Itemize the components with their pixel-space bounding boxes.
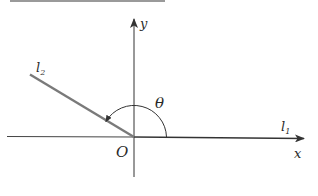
line-l2-label: l2 [36, 60, 45, 77]
y-axis-label: y [139, 16, 148, 31]
line-l1-label-sub: 1 [285, 127, 290, 136]
angle-theta-label: θ [155, 94, 164, 112]
x-axis-label: x [294, 146, 302, 161]
x-axis-positive-l1 [134, 137, 304, 139]
line-l2 [30, 75, 134, 138]
diagram-canvas: y x O θ l2 l1 [0, 0, 318, 196]
line-l1-label: l1 [281, 119, 290, 136]
x-axis [7, 137, 134, 138]
origin-label: O [116, 143, 128, 161]
line-l2-label-sub: 2 [39, 68, 45, 77]
